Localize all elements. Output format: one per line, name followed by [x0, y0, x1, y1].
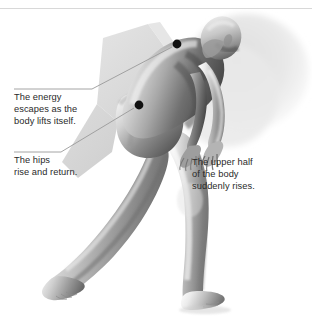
- callout-label-hips: The hips rise and return.: [14, 155, 110, 179]
- illustration-panel: The energy escapes as the body lifts its…: [0, 0, 312, 320]
- marker-dot-hip: [135, 101, 144, 110]
- marker-dot-shoulder: [173, 40, 182, 49]
- callout-label-energy: The energy escapes as the body lifts its…: [14, 92, 110, 127]
- callout-label-upper-body: The upper half of the body suddenly rise…: [192, 157, 302, 192]
- ground-shadow: [179, 306, 231, 314]
